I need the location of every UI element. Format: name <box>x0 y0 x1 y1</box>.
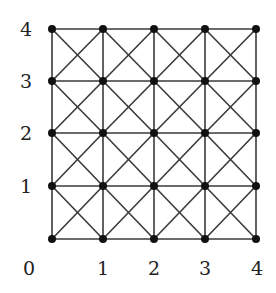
y-axis-label: 2 <box>20 122 32 144</box>
x-axis-label: 1 <box>97 257 109 279</box>
graph-node <box>48 25 56 33</box>
graph-node <box>150 25 158 33</box>
graph-node <box>99 77 107 85</box>
y-axis-label: 1 <box>20 175 32 197</box>
graph-node <box>252 235 260 243</box>
graph-node <box>48 129 56 137</box>
king-graph-diagram: 012341234 <box>0 0 276 293</box>
y-axis-label: 4 <box>20 18 32 40</box>
x-axis-label: 3 <box>199 257 211 279</box>
graph-node <box>48 235 56 243</box>
graph-node <box>252 129 260 137</box>
x-axis-label: 0 <box>23 257 35 279</box>
axis-labels: 012341234 <box>20 18 263 279</box>
graph-node <box>150 182 158 190</box>
graph-node <box>201 77 209 85</box>
graph-node <box>99 182 107 190</box>
graph-node <box>99 25 107 33</box>
graph-node <box>252 25 260 33</box>
graph-node <box>48 77 56 85</box>
graph-node <box>201 182 209 190</box>
y-axis-label: 3 <box>20 70 32 92</box>
graph-node <box>201 129 209 137</box>
graph-node <box>252 182 260 190</box>
graph-node <box>201 25 209 33</box>
x-axis-label: 4 <box>251 257 263 279</box>
x-axis-label: 2 <box>148 257 160 279</box>
graph-node <box>48 182 56 190</box>
graph-node <box>99 235 107 243</box>
graph-node <box>99 129 107 137</box>
graph-node <box>201 235 209 243</box>
graph-node <box>150 235 158 243</box>
graph-node <box>252 77 260 85</box>
graph-node <box>150 129 158 137</box>
graph-node <box>150 77 158 85</box>
